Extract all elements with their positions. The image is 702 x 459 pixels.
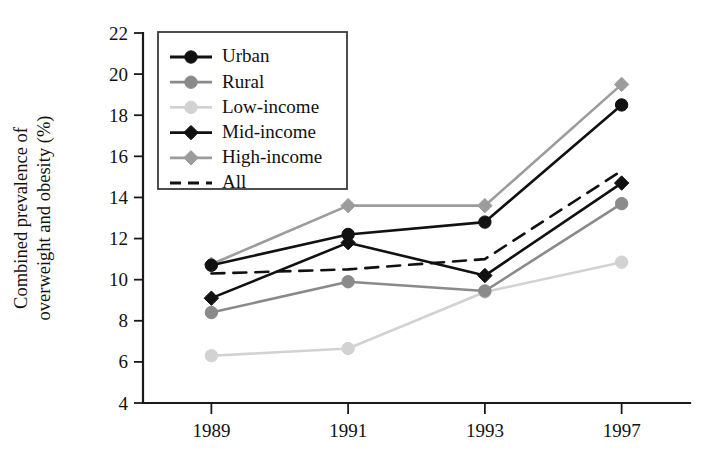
y-tick-label: 10 — [109, 269, 128, 290]
y-tick-label: 18 — [109, 105, 128, 126]
x-tick-label: 1997 — [603, 420, 641, 441]
legend-item-label: Rural — [222, 71, 264, 92]
data-point-marker — [615, 197, 627, 209]
legend-item-label: Urban — [222, 45, 270, 66]
x-tick-label: 1989 — [192, 420, 230, 441]
legend-swatch-marker — [185, 51, 197, 63]
x-axis-ticks: 1989199119931997 — [192, 403, 640, 441]
y-axis-title-line2: overweight and obesity (%) — [34, 116, 55, 321]
y-axis-title: Combined prevalence of overweight and ob… — [11, 116, 55, 321]
y-tick-label: 12 — [109, 228, 128, 249]
chart-figure: Combined prevalence of overweight and ob… — [0, 0, 702, 459]
legend: UrbanRuralLow-incomeMid-incomeHigh-incom… — [158, 32, 347, 192]
legend-item-label: High-income — [222, 146, 322, 167]
data-point-marker — [478, 268, 492, 282]
legend-swatch-marker — [185, 76, 197, 88]
y-tick-label: 22 — [109, 23, 128, 44]
data-point-marker — [342, 228, 354, 240]
legend-item-label: All — [222, 171, 246, 192]
y-tick-label: 16 — [109, 146, 128, 167]
line-chart: Combined prevalence of overweight and ob… — [0, 0, 702, 459]
y-tick-label: 20 — [109, 64, 128, 85]
data-point-marker — [615, 99, 627, 111]
y-tick-label: 4 — [119, 393, 129, 414]
y-tick-label: 14 — [109, 187, 129, 208]
legend-item-label: Mid-income — [222, 121, 316, 142]
data-point-marker — [205, 350, 217, 362]
data-point-marker — [204, 291, 218, 305]
y-tick-label: 6 — [119, 351, 129, 372]
data-point-marker — [342, 276, 354, 288]
data-point-marker — [615, 256, 627, 268]
y-axis-title-line1: Combined prevalence of — [11, 126, 31, 309]
data-point-marker — [614, 176, 628, 190]
y-axis-ticks: 46810121416182022 — [109, 23, 143, 414]
legend-swatch-marker — [185, 101, 197, 113]
y-tick-label: 8 — [119, 310, 129, 331]
x-tick-label: 1991 — [329, 420, 367, 441]
data-point-marker — [342, 342, 354, 354]
data-point-marker — [479, 216, 491, 228]
x-tick-label: 1993 — [466, 420, 504, 441]
data-point-marker — [479, 285, 491, 297]
data-point-marker — [205, 259, 217, 271]
data-point-marker — [205, 306, 217, 318]
series-line — [211, 262, 621, 356]
legend-item-label: Low-income — [222, 96, 319, 117]
data-point-marker — [341, 198, 355, 212]
series-line — [211, 183, 621, 298]
